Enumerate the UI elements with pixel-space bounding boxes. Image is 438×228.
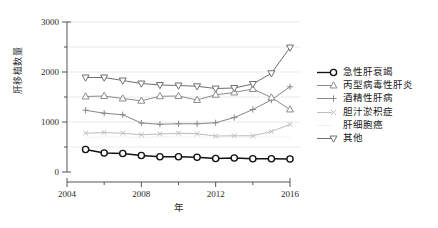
legend-item-5[interactable]: 其他 xyxy=(316,132,438,145)
y-tick-label: 1000 xyxy=(41,117,60,127)
series-5 xyxy=(82,45,293,92)
legend-label: 肝细胞癌 xyxy=(340,119,383,132)
data-point-circle xyxy=(213,155,219,161)
series-line xyxy=(86,125,290,137)
data-point-plus xyxy=(250,106,256,112)
data-point-circle xyxy=(120,150,126,156)
data-point-circle xyxy=(287,156,293,162)
legend-marker-circle-icon xyxy=(316,66,340,79)
legend-item-1[interactable]: 丙型病毒性肝炎 xyxy=(316,79,438,92)
legend-item-4[interactable]: 肝细胞癌 xyxy=(316,119,438,132)
data-point-plus xyxy=(330,96,336,102)
data-point-circle xyxy=(157,154,163,160)
data-point-triangle-down xyxy=(175,83,182,89)
data-point-plus xyxy=(101,110,107,116)
data-point-triangle-up xyxy=(175,92,182,98)
data-point-plus xyxy=(175,121,181,127)
series-3 xyxy=(83,122,292,138)
data-point-triangle-down xyxy=(82,75,89,81)
legend-label: 急性肝衰竭 xyxy=(340,66,393,79)
data-point-triangle-down xyxy=(231,86,238,92)
legend-label: 酒精性肝病 xyxy=(340,92,393,105)
x-tick-label: 2004 xyxy=(58,189,77,199)
data-point-triangle-up xyxy=(82,93,89,99)
data-point-circle xyxy=(268,156,274,162)
data-point-triangle-down xyxy=(268,71,275,77)
data-point-plus xyxy=(213,120,219,126)
legend-marker-triangle-down-icon xyxy=(316,132,340,145)
series-line xyxy=(86,137,290,138)
legend-item-0[interactable]: 急性肝衰竭 xyxy=(316,66,438,79)
series-4 xyxy=(86,137,290,138)
series-1 xyxy=(82,85,293,112)
legend-marker-none-icon xyxy=(316,119,340,132)
data-point-circle xyxy=(101,150,107,156)
data-point-triangle-down xyxy=(156,83,163,89)
series-2 xyxy=(82,84,293,128)
data-point-triangle-up xyxy=(330,82,337,88)
data-point-circle xyxy=(138,152,144,158)
data-point-x xyxy=(288,122,293,127)
legend-marker-plus-icon xyxy=(316,92,340,105)
data-point-circle xyxy=(82,146,88,152)
y-tick-label: 2000 xyxy=(41,67,60,77)
data-point-circle xyxy=(175,154,181,160)
y-tick-label: 0 xyxy=(55,167,60,177)
data-point-plus xyxy=(138,120,144,126)
y-tick-label: 3000 xyxy=(41,17,60,27)
legend-label: 胆汁淤积症 xyxy=(340,106,393,119)
legend-marker-triangle-up-icon xyxy=(316,79,340,92)
data-point-triangle-down xyxy=(212,86,219,92)
x-axis-title: 年 xyxy=(67,200,291,214)
chart-canvas: 01000200030002004200820122016 xyxy=(0,0,310,200)
x-tick-label: 2008 xyxy=(132,189,151,199)
legend-marker-x-icon xyxy=(316,106,340,119)
x-tick-label: 2016 xyxy=(281,189,300,199)
series-line xyxy=(86,48,290,89)
data-point-plus xyxy=(194,121,200,127)
data-point-triangle-up xyxy=(101,92,108,98)
data-point-plus xyxy=(120,112,126,118)
data-point-triangle-up xyxy=(287,106,294,112)
legend-label: 丙型病毒性肝炎 xyxy=(340,79,413,92)
data-point-circle xyxy=(330,69,336,75)
x-tick-label: 2012 xyxy=(207,189,225,199)
data-point-circle xyxy=(231,155,237,161)
data-point-triangle-up xyxy=(156,93,163,99)
legend-label: 其他 xyxy=(340,132,363,145)
data-point-circle xyxy=(250,156,256,162)
legend-item-2[interactable]: 酒精性肝病 xyxy=(316,92,438,105)
plot-area: 01000200030002004200820122016 xyxy=(0,0,310,200)
data-point-circle xyxy=(194,154,200,160)
data-point-plus xyxy=(82,107,88,113)
data-point-triangle-down xyxy=(330,136,337,142)
y-axis-title: 肝移植数量 xyxy=(11,26,24,116)
series-line xyxy=(86,150,290,160)
legend-item-3[interactable]: 胆汁淤积症 xyxy=(316,106,438,119)
chart-legend: 急性肝衰竭丙型病毒性肝炎酒精性肝病胆汁淤积症肝细胞癌其他 xyxy=(316,66,438,145)
series-0 xyxy=(82,146,293,162)
chart-figure: 01000200030002004200820122016 肝移植数量 年 急性… xyxy=(0,0,438,228)
data-point-plus xyxy=(287,84,293,90)
data-point-plus xyxy=(231,114,237,120)
